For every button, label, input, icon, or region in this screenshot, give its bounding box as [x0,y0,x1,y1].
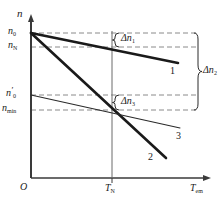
figure-canvas [0,0,221,203]
x-axis-label: Tem [190,183,203,193]
xtick-TN-sub: N [111,188,115,194]
ytick-nmin-sub: min [7,108,16,114]
x-axis-arrow [203,175,211,181]
curve-label-3: 3 [176,131,181,141]
ytick-nN-sub: N [13,45,17,51]
delta-n2-base: Δn [203,64,214,75]
origin-label: O [20,182,27,192]
xtick-label-TN: TN [105,183,115,193]
xtick-TN-base: T [105,182,111,193]
delta-n1-sub: 1 [132,38,135,44]
ytick-label-nN: nN [8,40,17,50]
curve-3-line [31,95,180,128]
delta-n3-sub: 3 [132,101,135,107]
brace-label-delta-n2: Δn2 [203,65,217,75]
brace-label-delta-n3: Δn3 [121,96,135,106]
curve-1-line [31,33,178,63]
x-axis-base: T [190,182,196,193]
ytick-label-n0-prime: n′0 [6,88,16,98]
brace-delta-n1 [113,33,120,47]
brace-delta-n2 [194,33,202,110]
x-axis-sub: em [196,188,203,194]
ytick-label-n0: n0 [8,26,16,36]
delta-n1-base: Δn [121,32,132,43]
delta-n3-base: Δn [121,95,132,106]
ytick-n0-sub: 0 [13,31,16,37]
ytick-n0prime-sub: 0 [13,93,16,99]
ytick-label-nmin: nmin [2,103,16,113]
y-axis-label: n [17,8,23,19]
curve-label-2: 2 [148,152,153,162]
speed-torque-characteristic-figure: n n0 nN n′0 nmin O TN Tem Δn1 Δn3 Δn2 1 … [0,0,221,203]
delta-n2-sub: 2 [214,70,217,76]
brace-label-delta-n1: Δn1 [121,33,135,43]
y-axis-arrow [28,14,34,22]
curve-label-1: 1 [170,66,175,76]
